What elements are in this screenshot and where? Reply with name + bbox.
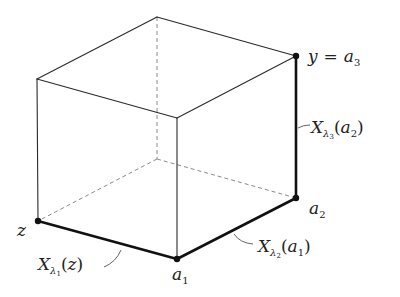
vertex-a1 xyxy=(174,256,180,262)
visible-edges xyxy=(37,17,296,259)
path-edge-a1-a2 xyxy=(177,198,296,259)
cube-diagram: y=a3 a2 a1 z Xλ1(z) Xλ2(a1) Xλ3(a2) xyxy=(0,0,400,297)
leader-x-lambda3 xyxy=(298,125,310,128)
leader-x-lambda1 xyxy=(104,250,121,267)
label-a2: a2 xyxy=(309,198,326,220)
edge-top-back-right xyxy=(157,17,296,56)
hidden-edges xyxy=(38,17,296,221)
leader-lines xyxy=(104,125,310,267)
label-x-lambda2-a1: Xλ2(a1) xyxy=(256,236,311,260)
label-x-lambda3-a2: Xλ3(a2) xyxy=(309,117,364,141)
vertex-y xyxy=(293,53,299,59)
label-z: z xyxy=(16,220,27,240)
vertex-z xyxy=(35,218,41,224)
edge-top-back-left xyxy=(37,17,157,79)
label-x-lambda1-z: Xλ1(z) xyxy=(36,254,83,278)
hidden-edge-to-z xyxy=(38,159,157,221)
label-a1: a1 xyxy=(172,264,189,286)
edge-top-left-front xyxy=(37,79,177,118)
path-edges xyxy=(38,56,296,259)
hidden-edge-to-a2 xyxy=(157,159,296,198)
path-edge-z-a1 xyxy=(38,221,177,259)
leader-x-lambda2 xyxy=(234,234,253,244)
edge-top-front-right xyxy=(177,56,296,118)
vertex-a2 xyxy=(293,195,299,201)
edge-left-vertical xyxy=(37,79,38,221)
label-y-equals-a3: y=a3 xyxy=(307,46,360,68)
